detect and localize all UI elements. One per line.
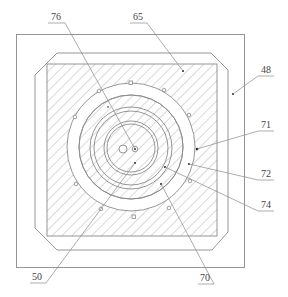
label-76: 76 bbox=[51, 11, 61, 22]
leader-48 bbox=[233, 76, 274, 94]
center-hole bbox=[119, 145, 127, 153]
label-48: 48 bbox=[261, 64, 271, 75]
label-72: 72 bbox=[261, 168, 271, 179]
label-70: 70 bbox=[200, 272, 210, 283]
label-50: 50 bbox=[32, 271, 42, 282]
label-71: 71 bbox=[261, 119, 271, 130]
label-65: 65 bbox=[133, 11, 143, 22]
label-74: 74 bbox=[261, 199, 271, 210]
diagram-figure: 76 65 48 71 72 74 50 70 bbox=[0, 0, 288, 297]
